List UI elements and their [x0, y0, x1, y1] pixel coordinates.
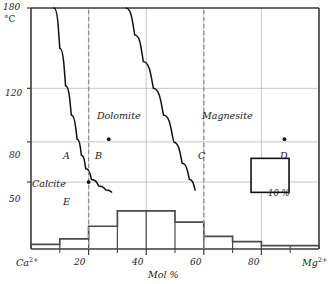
y-tick-label-120: 120: [5, 88, 22, 98]
annotation-label-A: A: [63, 150, 70, 161]
annotation-label-C: C: [198, 150, 205, 161]
x-tick-label-60: 60: [190, 257, 201, 267]
ca-charge: 2+: [29, 256, 39, 264]
annotation-marker-E: [87, 180, 91, 184]
chart-figure: 180 °C 120 80 50 Ca2+ Mg2+ 20 40 60 80 M…: [0, 0, 334, 284]
legend-scale-label: 10 %: [268, 188, 290, 198]
y-tick-label-80: 80: [9, 150, 20, 160]
x-axis-label-magnesium: Mg2+: [302, 256, 327, 268]
field-label-calcite: Calcite: [32, 178, 66, 189]
ca-text: Ca: [16, 257, 29, 268]
y-tick-label-50: 50: [9, 194, 20, 204]
x-tick-label-20: 20: [74, 257, 85, 267]
field-label-dolomite: Dolomite: [97, 110, 141, 121]
solvus-curve-dolomite-magnesite: [126, 8, 195, 190]
field-label-magnesite: Magnesite: [202, 110, 253, 121]
y-tick-label-180: 180: [3, 2, 20, 12]
annotation-label-D: D: [280, 150, 288, 161]
mg-text: Mg: [302, 257, 318, 268]
annotation-marker-B: [107, 137, 111, 141]
annotation-label-B: B: [95, 150, 102, 161]
annotation-label-E: E: [63, 196, 70, 207]
chart-canvas: [0, 0, 334, 284]
y-axis-unit-label: °C: [4, 14, 15, 24]
x-axis-label-calcium: Ca2+: [16, 256, 39, 268]
annotation-marker-D: [283, 137, 287, 141]
x-tick-label-80: 80: [248, 257, 259, 267]
x-tick-label-40: 40: [132, 257, 143, 267]
x-axis-title: Mol %: [148, 269, 179, 280]
mg-charge: 2+: [318, 256, 328, 264]
solvus-curve-calcite-dolomite: [54, 8, 112, 192]
